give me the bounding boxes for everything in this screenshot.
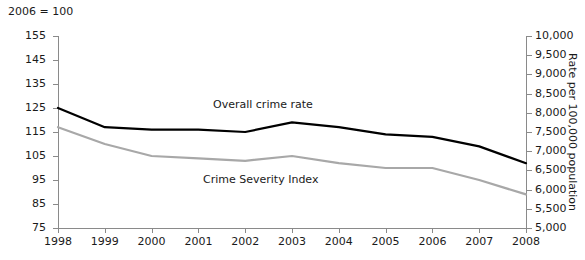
crime-rate-line-chart: 2006 = 100 758595105115125135145155 5,00… (0, 0, 585, 260)
series-label-crime-severity-index: Crime Severity Index (203, 173, 318, 186)
plot-area (0, 0, 585, 260)
series-label-overall-crime-rate: Overall crime rate (213, 98, 313, 111)
